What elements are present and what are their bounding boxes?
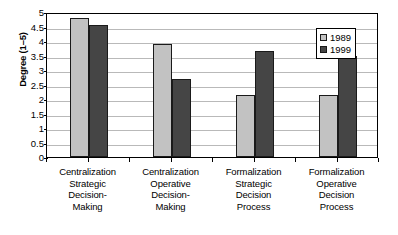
x-axis-category-label-line: Decision-	[129, 189, 212, 201]
y-axis-tick-labels: 00.511.522.533.544.55	[14, 13, 44, 158]
x-axis-category-label: CentralizationStrategicDecision-Making	[46, 166, 129, 212]
x-axis-tick-mark	[378, 158, 379, 162]
bar-1999-3	[255, 51, 274, 157]
x-axis-category-label-line: Formalization	[212, 166, 295, 178]
x-axis-tick-mark	[46, 158, 47, 162]
y-axis-tick-label: 3	[14, 66, 44, 76]
chart-legend: 19891999	[316, 28, 356, 59]
x-axis-category-label-line: Formalization	[295, 166, 378, 178]
y-axis-tick-label: 3.5	[14, 52, 44, 62]
legend-swatch-icon	[320, 34, 327, 41]
x-axis-category-label-line: Strategic	[46, 178, 129, 190]
x-axis-category-labels: CentralizationStrategicDecision-MakingCe…	[46, 166, 378, 230]
x-axis-tick-mark	[171, 158, 172, 162]
x-axis-tick-mark	[88, 158, 89, 162]
y-axis-tick-label: 5	[14, 8, 44, 18]
y-axis-tick-label: 4.5	[14, 23, 44, 33]
bar-1989-1	[70, 18, 89, 157]
y-axis-tick-label: 2.5	[14, 81, 44, 91]
y-axis-tick-label: 2	[14, 95, 44, 105]
y-axis-tick-label: 0	[14, 153, 44, 163]
bar-1989-3	[236, 95, 255, 157]
x-axis-category-label: FormalizationOperativeDecisionProcess	[295, 166, 378, 212]
bar-1989-2	[153, 44, 172, 157]
x-axis-category-label-line: Centralization	[129, 166, 212, 178]
x-axis-category-label-line: Decision	[212, 189, 295, 201]
x-axis-category-label-line: Decision-	[46, 189, 129, 201]
legend-label: 1999	[330, 45, 351, 55]
x-axis-tick-mark	[337, 158, 338, 162]
x-axis-category-label-line: Centralization	[46, 166, 129, 178]
x-axis-tick-mark	[212, 158, 213, 162]
x-axis-tick-mark	[295, 158, 296, 162]
bar-1999-1	[89, 25, 108, 157]
bar-chart: Degree (1–5) 00.511.522.533.544.55 Centr…	[0, 0, 398, 235]
x-axis-category-label-line: Process	[212, 201, 295, 213]
legend-swatch-icon	[320, 46, 327, 53]
x-axis-category-label-line: Process	[295, 201, 378, 213]
x-axis-tick-mark	[129, 158, 130, 162]
x-axis-category-label-line: Strategic	[212, 178, 295, 190]
x-axis-category-label-line: Operative	[129, 178, 212, 190]
x-axis-category-label: FormalizationStrategicDecisionProcess	[212, 166, 295, 212]
x-axis-category-label-line: Operative	[295, 178, 378, 190]
y-axis-tick-label: 1	[14, 124, 44, 134]
bar-1999-2	[172, 79, 191, 157]
x-axis-category-label: CentralizationOperativeDecision-Making	[129, 166, 212, 212]
bar-1999-4	[338, 56, 357, 158]
legend-item-1999: 1999	[320, 44, 351, 55]
x-axis-tick-mark	[254, 158, 255, 162]
bar-1989-4	[319, 95, 338, 157]
legend-item-1989: 1989	[320, 32, 351, 43]
x-axis-category-label-line: Making	[129, 201, 212, 213]
y-axis-tick-label: 4	[14, 37, 44, 47]
x-axis-category-label-line: Decision	[295, 189, 378, 201]
legend-label: 1989	[330, 33, 351, 43]
x-axis-category-label-line: Making	[46, 201, 129, 213]
y-axis-tick-label: 0.5	[14, 139, 44, 149]
y-axis-tick-label: 1.5	[14, 110, 44, 120]
